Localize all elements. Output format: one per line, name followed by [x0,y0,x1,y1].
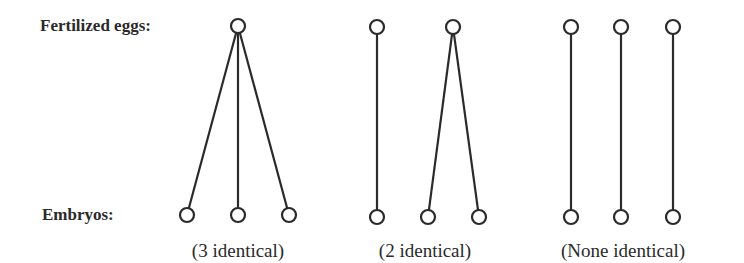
embryo-node [421,210,435,224]
egg-node [231,19,245,33]
egg-node [564,20,578,34]
embryo-node [180,208,194,222]
twinning-diagram [0,0,744,263]
embryo-node [282,208,296,222]
egg-node [446,20,460,34]
lineage-line [454,34,478,210]
group-3 [564,20,680,224]
egg-node [666,20,680,34]
egg-node [370,20,384,34]
embryo-node [666,210,680,224]
group-2 [370,20,486,224]
lineage-line [429,34,452,210]
embryo-node [370,210,384,224]
egg-node [614,20,628,34]
embryo-node [614,210,628,224]
caption-group-1: (3 identical) [192,240,284,262]
lineage-line [189,33,236,208]
embryo-node [231,208,245,222]
caption-group-3: (None identical) [561,240,685,262]
embryo-node [472,210,486,224]
caption-group-2: (2 identical) [379,240,471,262]
lineage-line [240,33,287,208]
group-1 [180,19,296,222]
embryo-node [564,210,578,224]
